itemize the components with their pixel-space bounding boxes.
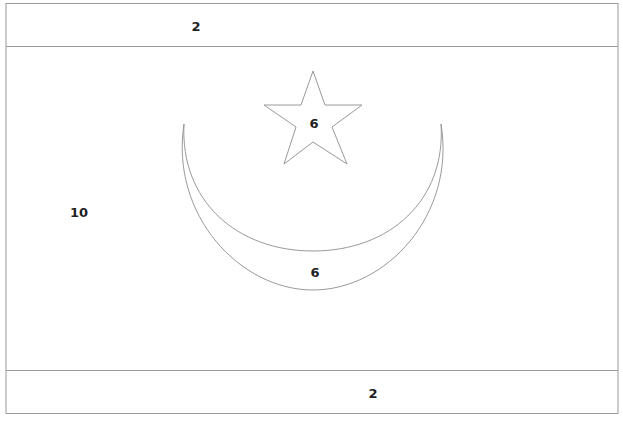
flag-outline: 2 10 6 6 2 (0, 0, 623, 422)
bottom-stripe-label: 2 (368, 386, 377, 401)
field-label: 10 (70, 205, 88, 220)
top-stripe-label: 2 (191, 19, 200, 34)
crescent-label: 6 (310, 265, 319, 280)
flag-border (6, 4, 618, 414)
star-label: 6 (309, 116, 318, 131)
